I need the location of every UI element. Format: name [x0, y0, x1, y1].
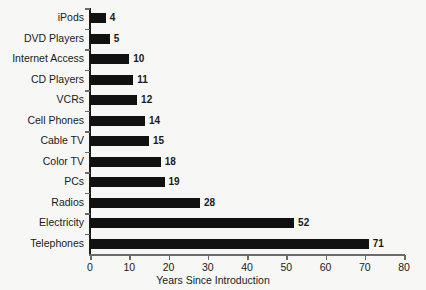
category-label: Cable TV — [0, 134, 84, 147]
bar-row: Telephones71 — [90, 234, 426, 255]
category-label: PCs — [0, 175, 84, 188]
bar-row: Cell Phones14 — [90, 111, 426, 132]
x-axis-tick — [169, 255, 171, 260]
bar-value-label: 12 — [141, 93, 152, 106]
bar-value-label: 28 — [204, 196, 215, 209]
y-axis-tick — [85, 193, 90, 195]
bar-row: Color TV18 — [90, 152, 426, 173]
bar-row: DVD Players5 — [90, 29, 426, 50]
y-axis-tick — [85, 213, 90, 215]
bar-row: iPods4 — [90, 8, 426, 29]
y-axis-tick — [85, 49, 90, 51]
bar-value-label: 4 — [110, 11, 116, 24]
bar — [90, 239, 369, 249]
bar-value-label: 52 — [298, 216, 309, 229]
y-axis-tick — [85, 111, 90, 113]
y-axis-tick — [85, 29, 90, 31]
y-axis-tick — [85, 70, 90, 72]
category-label: VCRs — [0, 93, 84, 106]
category-label: Telephones — [0, 237, 84, 250]
y-axis-tick — [85, 152, 90, 154]
bar — [90, 75, 133, 85]
x-axis-tick — [208, 255, 210, 260]
bar-row: Radios28 — [90, 193, 426, 214]
bar-value-label: 10 — [133, 52, 144, 65]
category-label: Internet Access — [0, 52, 84, 65]
bar-value-label: 71 — [373, 237, 384, 250]
x-axis-tick — [404, 255, 406, 260]
bar — [90, 157, 161, 167]
x-axis-tick — [247, 255, 249, 260]
x-axis-tick-label: 80 — [398, 261, 410, 274]
bar — [90, 136, 149, 146]
bar-row: Internet Access10 — [90, 49, 426, 70]
category-label: iPods — [0, 11, 84, 24]
bar — [90, 13, 106, 23]
bar-value-label: 5 — [114, 32, 120, 45]
x-axis-tick-label: 0 — [87, 261, 93, 274]
bar — [90, 198, 200, 208]
category-label: Electricity — [0, 216, 84, 229]
x-axis-tick — [129, 255, 131, 260]
bar — [90, 218, 294, 228]
x-axis-tick-label: 50 — [280, 261, 292, 274]
bar — [90, 116, 145, 126]
category-label: Cell Phones — [0, 114, 84, 127]
bar — [90, 177, 165, 187]
x-axis-tick-label: 10 — [123, 261, 135, 274]
x-axis-tick-label: 70 — [359, 261, 371, 274]
bar-row: Cable TV15 — [90, 131, 426, 152]
x-axis-tick-label: 40 — [241, 261, 253, 274]
category-label: CD Players — [0, 73, 84, 86]
bar — [90, 34, 110, 44]
x-axis-tick-label: 60 — [320, 261, 332, 274]
bar-row: CD Players11 — [90, 70, 426, 91]
bar-row: PCs19 — [90, 172, 426, 193]
category-label: DVD Players — [0, 32, 84, 45]
category-label: Color TV — [0, 155, 84, 168]
bar-value-label: 14 — [149, 114, 160, 127]
x-axis-title: Years Since Introduction — [0, 274, 426, 287]
bar-value-label: 11 — [137, 73, 148, 86]
bar-value-label: 15 — [153, 134, 164, 147]
y-axis-tick — [85, 234, 90, 236]
y-axis-tick — [85, 8, 90, 10]
y-axis-tick — [85, 90, 90, 92]
x-axis-tick — [286, 255, 288, 260]
x-axis-tick-label: 20 — [163, 261, 175, 274]
x-axis-tick — [90, 255, 92, 260]
bar-row: VCRs12 — [90, 90, 426, 111]
bar-row: Electricity52 — [90, 213, 426, 234]
y-axis-tick — [85, 172, 90, 174]
bar — [90, 95, 137, 105]
bar — [90, 54, 129, 64]
bar-chart: iPods4DVD Players5Internet Access10CD Pl… — [0, 0, 426, 290]
bar-value-label: 18 — [165, 155, 176, 168]
category-label: Radios — [0, 196, 84, 209]
x-axis-tick-label: 30 — [202, 261, 214, 274]
y-axis-tick — [85, 131, 90, 133]
x-axis-tick — [365, 255, 367, 260]
bar-value-label: 19 — [169, 175, 180, 188]
x-axis-tick — [326, 255, 328, 260]
